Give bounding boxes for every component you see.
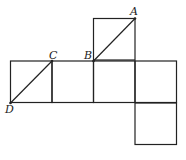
net-face-5 (135, 61, 177, 103)
segment-dc (11, 61, 53, 103)
cube-net-svg: A B C D (0, 0, 186, 160)
net-face-6 (135, 103, 177, 145)
cube-net-diagram: A B C D (0, 0, 186, 160)
label-c: C (49, 49, 58, 62)
label-a: A (129, 5, 138, 18)
vertex-point-b (92, 60, 95, 63)
label-b: B (83, 49, 92, 62)
net-face-4 (94, 61, 136, 103)
net-face-3 (52, 61, 94, 103)
net-faces (11, 19, 177, 145)
label-d: D (4, 103, 14, 116)
segment-ba (94, 19, 136, 62)
